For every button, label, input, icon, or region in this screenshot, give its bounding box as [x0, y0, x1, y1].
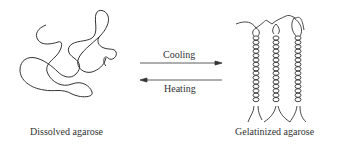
dissolved-caption: Dissolved agarose: [30, 126, 103, 137]
cooling-arrow-icon: [140, 61, 222, 65]
helix-beads: [253, 36, 301, 102]
cooling-label: Cooling: [163, 49, 195, 60]
random-coil-icon: [20, 10, 116, 96]
double-helix-icon: [236, 15, 306, 122]
heating-label: Heating: [164, 83, 196, 94]
gelatinized-caption: Gelatinized agarose: [235, 126, 314, 137]
heating-arrow-icon: [140, 78, 222, 82]
